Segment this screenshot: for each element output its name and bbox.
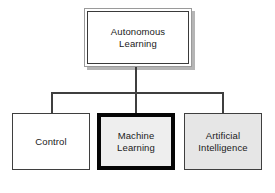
connector-horizontal-bus (51, 92, 224, 94)
connector-drop-artificial-intelligence (222, 92, 224, 114)
root-node-inner-frame: Autonomous Learning (87, 11, 189, 64)
connector-drop-control (51, 92, 53, 114)
connector-root-stem (135, 67, 137, 94)
diagram-canvas: Autonomous Learning Control Machine Lear… (0, 0, 275, 193)
node-control-label: Control (13, 136, 89, 148)
node-artificial-intelligence[interactable]: Artificial Intelligence (184, 113, 262, 170)
node-artificial-intelligence-label: Artificial Intelligence (185, 130, 261, 154)
node-autonomous-learning-label: Autonomous Learning (88, 26, 188, 50)
node-machine-learning-label: Machine Learning (101, 130, 171, 154)
node-autonomous-learning[interactable]: Autonomous Learning (84, 8, 192, 67)
node-control[interactable]: Control (12, 113, 90, 170)
connector-drop-machine-learning (135, 92, 137, 114)
node-machine-learning[interactable]: Machine Learning (97, 113, 175, 170)
